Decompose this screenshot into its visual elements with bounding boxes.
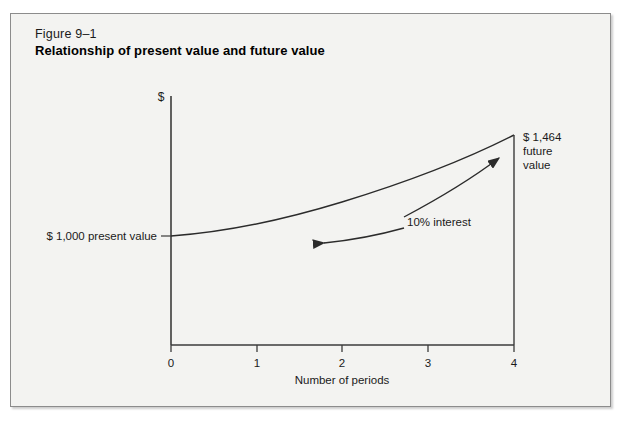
x-tick-label-1: 1 [254,357,260,369]
future-value-line3-label: value [523,159,551,171]
present-value-label: $ 1,000 present value [46,230,157,242]
x-axis-title: Number of periods [295,374,390,386]
figure-panel: Figure 9–1 Relationship of present value… [10,13,611,407]
y-axis-unit-label: $ [158,90,165,104]
x-tick-label-4: 4 [511,357,518,369]
future-value-amount-label: $ 1,464 [523,131,562,143]
x-tick-label-2: 2 [339,357,345,369]
future-value-line2-label: future [523,145,552,157]
interest-rate-label: 10% interest [407,216,472,228]
present-value-chart: $ 0 1 2 3 4 Number of periods $ 1,000 pr… [11,14,612,408]
x-tick-label-0: 0 [168,357,174,369]
interest-arrow-upward [404,158,499,217]
x-tick-label-3: 3 [425,357,431,369]
interest-arrow-downward [324,228,404,243]
